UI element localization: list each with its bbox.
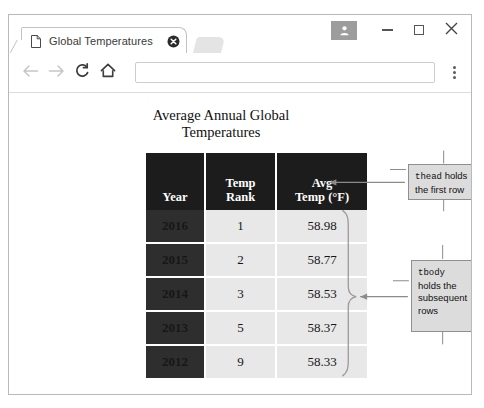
arrow-left-icon [22, 64, 39, 82]
cell-avg-temp: 58.98 [277, 210, 367, 244]
kebab-dot-1 [453, 66, 456, 69]
cell-year: 2014 [146, 278, 206, 312]
back-button[interactable] [17, 60, 43, 86]
header-year-line1: Year [163, 190, 188, 204]
annotation-thead-line2: the first row [415, 184, 464, 195]
annotation-thead: thead holds the first row [408, 164, 471, 200]
close-circle-icon[interactable] [167, 34, 180, 47]
minimize-icon [382, 29, 393, 31]
person-icon[interactable] [331, 21, 357, 40]
annotation-tbody-line2: subsequent [418, 292, 467, 303]
table-head: Year Temp Rank Avg Temp (°F) [146, 153, 367, 210]
cell-avg-temp: 58.77 [277, 244, 367, 278]
cell-year: 2016 [146, 210, 206, 244]
home-icon [100, 63, 116, 82]
kebab-dot-2 [453, 71, 456, 74]
address-bar-input[interactable] [135, 62, 435, 83]
cell-avg-temp: 58.53 [277, 278, 367, 312]
close-icon [445, 21, 458, 39]
kebab-dot-3 [453, 76, 456, 79]
cell-rank: 9 [206, 346, 277, 378]
cell-rank: 3 [206, 278, 277, 312]
table-header-row: Year Temp Rank Avg Temp (°F) [146, 153, 367, 210]
temperatures-table: Year Temp Rank Avg Temp (°F) 2016 1 [146, 153, 367, 378]
kebab-menu-icon[interactable] [445, 60, 463, 86]
close-window-button[interactable] [435, 18, 467, 42]
new-tab-placeholder[interactable] [193, 37, 225, 53]
cell-year: 2015 [146, 244, 206, 278]
header-avg-line1: Avg [312, 176, 333, 190]
annotation-tbody: tbody holds the subsequent rows [411, 260, 471, 332]
reload-icon [74, 63, 90, 83]
maximize-icon [414, 25, 424, 35]
cell-avg-temp: 58.37 [277, 312, 367, 346]
browser-window: Global Temperatures [8, 14, 472, 395]
browser-tab-global-temperatures[interactable]: Global Temperatures [21, 27, 187, 53]
forward-button[interactable] [43, 60, 69, 86]
column-header-year: Year [146, 153, 206, 210]
header-rank-line1: Temp [225, 176, 255, 190]
cell-rank: 1 [206, 210, 277, 244]
column-header-temp-rank: Temp Rank [206, 153, 277, 210]
annotation-tbody-line1: holds the [418, 280, 457, 291]
maximize-button[interactable] [403, 18, 435, 42]
table-row: 2016 1 58.98 [146, 210, 367, 244]
tab-strip: Global Temperatures [9, 15, 471, 53]
arrow-right-icon [48, 64, 65, 82]
cell-year: 2012 [146, 346, 206, 378]
cell-rank: 2 [206, 244, 277, 278]
table-body: 2016 1 58.98 2015 2 58.77 2014 3 58.53 2… [146, 210, 367, 378]
cell-rank: 5 [206, 312, 277, 346]
reload-button[interactable] [69, 60, 95, 86]
annotation-thead-line1: holds [442, 170, 467, 181]
cell-year: 2013 [146, 312, 206, 346]
annotation-tbody-line3: rows [418, 305, 438, 316]
window-controls [331, 15, 467, 45]
table-row: 2014 3 58.53 [146, 278, 367, 312]
tbody-arrow [360, 293, 408, 299]
page-icon [31, 34, 41, 47]
annotation-thead-code: thead [415, 172, 442, 182]
table-row: 2012 9 58.33 [146, 346, 367, 378]
column-header-avg-temp: Avg Temp (°F) [277, 153, 367, 210]
header-avg-line2: Temp (°F) [295, 190, 349, 204]
cell-avg-temp: 58.33 [277, 346, 367, 378]
table-row: 2015 2 58.77 [146, 244, 367, 278]
minimize-button[interactable] [371, 18, 403, 42]
header-rank-line2: Rank [226, 190, 255, 204]
table-row: 2013 5 58.37 [146, 312, 367, 346]
browser-toolbar [9, 53, 471, 93]
annotation-tbody-code: tbody [418, 268, 445, 278]
home-button[interactable] [95, 60, 121, 86]
tab-title: Global Temperatures [49, 35, 165, 47]
page-title: Average Annual Global Temperatures [127, 107, 315, 141]
page-viewport: Average Annual Global Temperatures Year … [9, 94, 471, 394]
